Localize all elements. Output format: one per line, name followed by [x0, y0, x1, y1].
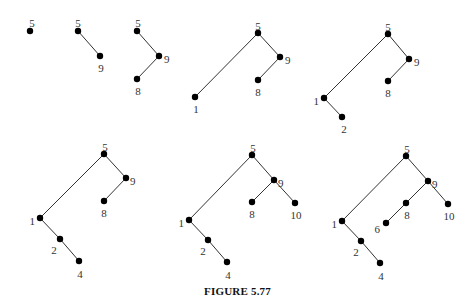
node-9 — [97, 53, 103, 59]
node-label-1: 1 — [332, 218, 338, 230]
node-label-5: 5 — [29, 17, 35, 29]
node-label-2: 2 — [51, 244, 57, 256]
node-label-9: 9 — [432, 178, 438, 190]
node-label-9: 9 — [285, 54, 291, 66]
node-8 — [101, 198, 107, 204]
node-label-4: 4 — [77, 268, 83, 280]
tree-step-6: 598124 — [30, 141, 137, 280]
node-10 — [445, 201, 451, 207]
edge-1-2 — [40, 218, 60, 239]
node-5 — [134, 28, 140, 34]
node-2 — [205, 237, 211, 243]
node-label-1: 1 — [179, 217, 185, 229]
node-label-8: 8 — [249, 208, 255, 220]
node-8 — [134, 76, 140, 82]
edge-9-8 — [258, 57, 280, 80]
node-label-2: 2 — [341, 123, 347, 135]
edge-9-8 — [137, 56, 159, 79]
node-label-8: 8 — [255, 86, 261, 98]
node-1 — [192, 94, 198, 100]
edge-5-1 — [324, 34, 388, 98]
node-label-10: 10 — [291, 209, 303, 221]
node-9 — [425, 178, 431, 184]
node-label-8: 8 — [135, 85, 141, 97]
node-label-9: 9 — [98, 62, 104, 74]
node-label-2: 2 — [200, 245, 206, 257]
edge-9-10 — [428, 181, 448, 204]
edge-5-9 — [388, 34, 409, 59]
node-label-5: 5 — [250, 142, 256, 154]
node-8 — [255, 77, 261, 83]
edge-5-9 — [258, 33, 280, 57]
edge-5-9 — [406, 156, 428, 181]
edge-2-4 — [208, 240, 227, 262]
node-label-8: 8 — [101, 207, 107, 219]
node-label-4: 4 — [378, 270, 384, 282]
node-8 — [249, 199, 255, 205]
edge-9-8 — [252, 180, 274, 202]
node-2 — [339, 114, 345, 120]
node-label-10: 10 — [444, 210, 456, 222]
node-2 — [57, 236, 63, 242]
node-label-5: 5 — [135, 17, 141, 29]
edge-1-2 — [342, 221, 361, 241]
node-label-9: 9 — [278, 177, 284, 189]
node-6 — [383, 220, 389, 226]
node-label-9: 9 — [130, 175, 136, 187]
node-label-6: 6 — [375, 223, 381, 235]
edge-5-1 — [189, 155, 252, 220]
bst-insertion-diagram: 55959859815981259812459810124598106124 — [0, 0, 475, 308]
node-9 — [156, 53, 162, 59]
tree-step-1: 5 — [27, 17, 35, 35]
node-label-8: 8 — [385, 87, 391, 99]
edge-5-1 — [342, 156, 406, 221]
node-1 — [321, 95, 327, 101]
node-9 — [277, 54, 283, 60]
node-label-1: 1 — [193, 103, 199, 115]
edge-5-9 — [78, 31, 100, 56]
tree-step-3: 598 — [134, 17, 170, 97]
tree-step-8: 598106124 — [332, 143, 456, 282]
node-1 — [339, 218, 345, 224]
edge-9-8 — [406, 181, 428, 203]
node-label-1: 1 — [30, 215, 36, 227]
tree-step-7: 59810124 — [179, 142, 303, 281]
node-1 — [186, 217, 192, 223]
edge-2-4 — [60, 239, 79, 261]
edge-9-8 — [388, 59, 409, 81]
node-label-1: 1 — [314, 95, 320, 107]
node-10 — [292, 200, 298, 206]
tree-step-4: 5981 — [192, 20, 291, 115]
node-label-5: 5 — [385, 21, 391, 33]
node-4 — [377, 260, 383, 266]
edge-5-9 — [104, 154, 126, 178]
node-label-2: 2 — [353, 246, 359, 258]
node-1 — [37, 215, 43, 221]
node-9 — [406, 56, 412, 62]
tree-step-2: 59 — [75, 17, 104, 74]
tree-step-5: 59812 — [314, 21, 421, 135]
figure-caption: FIGURE 5.77 — [0, 285, 475, 297]
node-label-9: 9 — [164, 53, 170, 65]
node-5 — [75, 28, 81, 34]
edge-8-6 — [386, 203, 406, 223]
node-label-8: 8 — [404, 209, 410, 221]
edge-5-9 — [137, 31, 159, 56]
node-4 — [224, 259, 230, 265]
node-label-5: 5 — [255, 20, 261, 32]
node-label-9: 9 — [414, 56, 420, 68]
edge-5-1 — [195, 33, 258, 97]
edge-2-4 — [361, 241, 380, 263]
node-label-5: 5 — [75, 17, 81, 29]
node-label-4: 4 — [225, 269, 231, 281]
node-label-5: 5 — [404, 143, 410, 155]
node-5 — [27, 28, 33, 34]
node-label-5: 5 — [102, 141, 108, 153]
node-9 — [271, 177, 277, 183]
node-4 — [76, 258, 82, 264]
edge-9-8 — [104, 178, 126, 201]
node-8 — [403, 200, 409, 206]
edge-5-1 — [40, 154, 104, 218]
edge-5-9 — [252, 155, 274, 180]
node-2 — [358, 238, 364, 244]
